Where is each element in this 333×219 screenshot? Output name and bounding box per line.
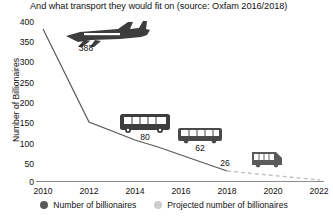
- coach-bus-icon: [120, 114, 170, 133]
- legend-marker-actual: [40, 201, 48, 209]
- data-label-26: 26: [205, 158, 245, 168]
- data-label-388: 388: [66, 43, 106, 53]
- data-label-62: 62: [180, 143, 220, 153]
- legend-item-projected[interactable]: Projected number of billionaires: [154, 200, 287, 210]
- data-label-80: 80: [125, 132, 165, 142]
- minibus-icon: [252, 152, 282, 167]
- series-line-projected: [227, 171, 320, 180]
- chart-legend: Number of billionaires Projected number …: [0, 200, 328, 210]
- legend-marker-projected: [154, 201, 162, 209]
- legend-item-actual[interactable]: Number of billionaires: [40, 200, 136, 210]
- legend-label-projected: Projected number of billionaires: [167, 200, 287, 210]
- legend-label-actual: Number of billionaires: [53, 200, 136, 210]
- bus-icon: [178, 128, 222, 143]
